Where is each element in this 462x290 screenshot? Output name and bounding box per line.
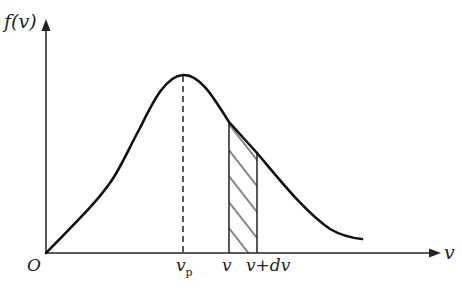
y-axis-label: f(v) bbox=[2, 10, 37, 32]
distribution-curve bbox=[46, 75, 362, 253]
maxwell-distribution-diagram: f(v) v O vp v v+dv bbox=[0, 0, 462, 290]
strip-left-label: v bbox=[222, 255, 232, 275]
y-axis bbox=[42, 19, 51, 253]
hatched-strip bbox=[229, 100, 257, 253]
x-axis-label: v bbox=[444, 241, 455, 263]
peak-speed-label: vp bbox=[176, 255, 193, 279]
origin-label: O bbox=[27, 255, 41, 275]
y-axis-arrow-icon bbox=[42, 19, 51, 31]
strip-right-label: v+dv bbox=[246, 255, 291, 275]
x-axis-arrow-icon bbox=[429, 249, 441, 258]
